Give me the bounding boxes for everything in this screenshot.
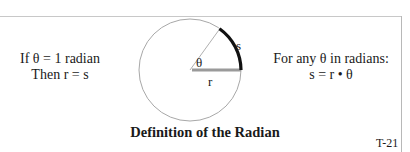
radian-formula-text: For any θ in radians: s = r • θ	[262, 51, 400, 83]
formula-line-1: For any θ in radians:	[262, 51, 400, 67]
slide-code: T-21	[376, 136, 398, 151]
formula-line-2: s = r • θ	[262, 67, 400, 83]
arc-label: s	[236, 38, 241, 53]
diagram-title: Definition of the Radian	[110, 124, 300, 141]
theta-label: θ	[196, 55, 202, 70]
angle-ray	[190, 29, 220, 71]
radius-label: r	[208, 74, 213, 89]
